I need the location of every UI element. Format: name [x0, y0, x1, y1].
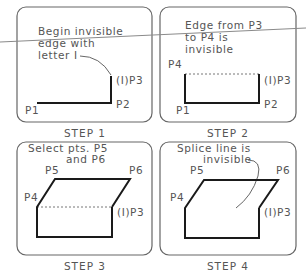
panel-1-caption: STEP 1: [64, 127, 106, 139]
point-label-p3: (I)P3: [116, 74, 143, 86]
panel-4-caption: STEP 4: [207, 260, 249, 272]
point-label-p3: (I)P3: [117, 206, 144, 218]
point-label-p2: P2: [264, 98, 278, 110]
point-label-p4: P4: [168, 58, 182, 70]
panel-1-note-line-1: Begin invisible: [38, 25, 123, 37]
point-label-p2: P2: [116, 98, 130, 110]
panel-2: Edge from P3 to P4 is invisible P4 (I)P3…: [168, 19, 291, 139]
panel-1-note-line-3: letter I: [38, 49, 78, 61]
point-label-p5: P5: [190, 164, 204, 176]
point-label-p1: P1: [25, 104, 39, 116]
point-label-p4: P4: [170, 191, 184, 203]
panel-3-caption: STEP 3: [64, 260, 106, 272]
leader-line: [236, 160, 259, 208]
panel-3-note-line-2: and P6: [66, 153, 106, 165]
edge-p4-p1-p2-p3: [185, 74, 259, 103]
point-label-p5: P5: [45, 164, 59, 176]
panel-2-note-line-3: invisible: [185, 43, 234, 55]
panel-2-note-line-1: Edge from P3: [185, 19, 263, 31]
point-label-p6: P6: [276, 164, 290, 176]
point-label-p4: P4: [24, 191, 38, 203]
panel-4: Splice line is invisible P5 P6 P4 (I)P3 …: [170, 142, 291, 272]
point-label-p3: (I)P3: [264, 206, 291, 218]
panel-3: Select pts. P5 and P6 P5 P6 P4 (I)P3 STE…: [24, 142, 144, 272]
panel-2-caption: STEP 2: [207, 127, 249, 139]
panel-4-note-line-2: invisible: [203, 153, 252, 165]
edge-p1-p2-p3: [37, 76, 111, 103]
point-label-p1: P1: [176, 104, 190, 116]
leader-line: [80, 56, 111, 75]
point-label-p3: (I)P3: [264, 74, 291, 86]
point-label-p6: P6: [129, 164, 143, 176]
invisible-edge-diagram: Begin invisible edge with letter I (I)P3…: [0, 0, 306, 280]
